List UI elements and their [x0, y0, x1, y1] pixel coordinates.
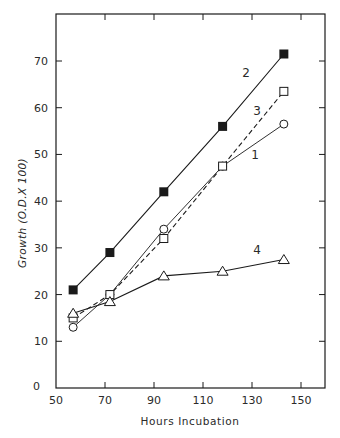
- series-markers: [68, 49, 290, 331]
- series-label-4: 4: [253, 243, 261, 257]
- open-square-marker: [160, 235, 168, 243]
- y-tick-label: 50: [34, 148, 48, 161]
- filled-square-marker: [159, 187, 168, 196]
- open-square-marker: [219, 162, 227, 170]
- y-tick-label: 60: [34, 102, 48, 115]
- open-circle-marker: [69, 323, 77, 331]
- y-tick-label: 20: [34, 289, 48, 302]
- open-triangle-marker: [68, 308, 79, 317]
- filled-square-marker: [279, 49, 288, 58]
- filled-square-marker: [69, 285, 78, 294]
- y-tick-label: 40: [34, 195, 48, 208]
- open-triangle-marker: [278, 255, 289, 264]
- x-tick-label: 150: [291, 394, 312, 407]
- growth-chart: 507090110130150010203040506070 2314 Hour…: [0, 0, 340, 438]
- y-tick-label: 30: [34, 242, 48, 255]
- filled-square-marker: [105, 248, 114, 257]
- x-tick-label: 50: [49, 394, 63, 407]
- series-label-2: 2: [242, 66, 250, 80]
- series-label-3: 3: [253, 104, 261, 118]
- filled-square-marker: [218, 122, 227, 131]
- y-tick-label: 70: [34, 55, 48, 68]
- x-tick-label: 130: [242, 394, 263, 407]
- y-axis-label: Growth (O.D.X 100): [16, 158, 28, 268]
- series-label-1: 1: [251, 148, 259, 162]
- x-tick-label: 90: [147, 394, 161, 407]
- open-square-marker: [280, 87, 288, 95]
- x-tick-label: 70: [98, 394, 112, 407]
- series-3-line: [73, 91, 284, 318]
- x-axis-label: Hours Incubation: [140, 415, 239, 427]
- series-labels: 2314: [242, 66, 261, 257]
- open-circle-marker: [280, 120, 288, 128]
- y-tick-label: 10: [34, 335, 48, 348]
- y-tick-label: 0: [33, 380, 40, 393]
- open-circle-marker: [160, 225, 168, 233]
- series-lines: [73, 54, 284, 327]
- x-tick-label: 110: [193, 394, 214, 407]
